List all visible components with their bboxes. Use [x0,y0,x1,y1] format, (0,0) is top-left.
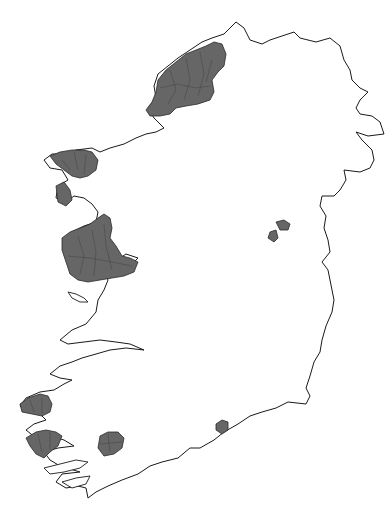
islands-aran [68,292,88,302]
region-kerry-iveragh [20,394,52,416]
map-container: Gaeltacht areas of Ireland [0,0,392,518]
region-mayo-north [50,150,98,178]
ireland-map [0,0,392,518]
